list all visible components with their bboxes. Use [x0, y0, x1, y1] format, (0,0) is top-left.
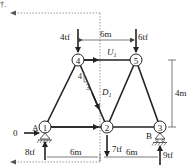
node-4: 4 — [72, 54, 84, 66]
svg-text:2: 2 — [105, 123, 110, 133]
support-b-label: B — [146, 131, 152, 141]
load-4tf-label: 4tf — [60, 32, 70, 42]
u1-label: U1 — [107, 47, 117, 58]
reaction-8tf-label: 8tf — [25, 147, 35, 157]
svg-text:4m: 4m — [175, 88, 187, 98]
bottom-right-label: 6m — [126, 147, 138, 157]
member-1-4 — [45, 60, 78, 127]
truss-diagram: †. U1 D1 4 3 4tf 6tf 7tf 6m — [0, 0, 191, 168]
support-a-pin — [37, 133, 52, 143]
support-a-label: A — [32, 123, 39, 133]
d1-label: D1 — [101, 87, 112, 98]
height-dimension: 4m — [168, 60, 191, 127]
reaction-horizontal-label: 0 — [13, 128, 18, 138]
node-5: 5 — [130, 54, 142, 66]
svg-text:1: 1 — [43, 123, 48, 133]
load-7tf-label: 7tf — [112, 144, 122, 154]
d1-force-arrow — [92, 93, 99, 109]
reaction-9tf-label: 9tf — [163, 150, 173, 160]
slope-run: 3 — [86, 83, 90, 92]
node-3: 3 — [154, 121, 166, 133]
top-span-label: 6m — [100, 29, 112, 39]
bottom-left-label: 6m — [70, 147, 82, 157]
svg-text:4: 4 — [76, 56, 81, 66]
node-1: 1 — [39, 121, 51, 133]
load-6tf-label: 6tf — [138, 32, 148, 42]
slope-rise: 4 — [78, 72, 82, 81]
support-b-roller — [152, 133, 167, 146]
member-5-3 — [136, 60, 160, 127]
node-2: 2 — [101, 121, 113, 133]
svg-text:3: 3 — [158, 123, 163, 133]
corner-label: †. — [0, 0, 6, 9]
svg-text:5: 5 — [134, 56, 139, 66]
